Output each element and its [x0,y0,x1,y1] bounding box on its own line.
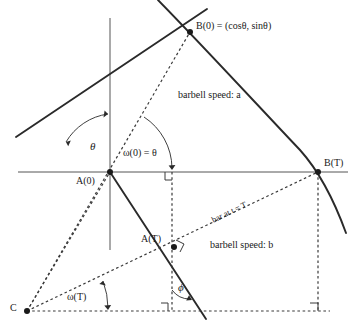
point-marker-A0 [107,169,113,175]
theta-arrow-head [104,111,109,118]
right-angle-x-axis-foot [165,172,172,180]
point-marker-C [24,308,30,314]
point-marker-B0 [187,29,193,35]
point-marker-AT [171,244,177,250]
geometry-figure: B(0) = (cosθ, sinθ) B(T) A(0) A(T) C θ ω… [0,0,362,328]
label-C: C [10,303,17,313]
label-phi: ϕ [178,282,184,293]
bar-line-t0 [16,9,207,137]
label-A0: A(0) [76,176,95,186]
theta-angle-arc [66,114,108,142]
label-omega-T: ω(T) [67,292,86,302]
label-theta: θ [90,141,95,152]
right-angle-bottom-left [161,303,168,311]
right-angle-at-AT [176,240,184,252]
omegaT-arrow-tail [99,281,106,286]
label-barbell-speed-b: barbell speed: b [210,240,273,250]
omega0-arrow-head [169,165,176,170]
point-marker-BT [315,169,321,175]
bar-line-tT [110,172,206,319]
label-barbell-speed-a: barbell speed: a [178,90,241,100]
omega0-angle-arc [144,117,172,168]
label-omega-0: ω(0) = θ [123,148,157,158]
right-angle-bottom-right [310,303,318,311]
diagram-canvas [0,0,362,328]
label-AT: A(T) [141,234,161,244]
omegaT-arrow-head [104,305,111,310]
label-B0: B(0) = (cosθ, sinθ) [196,21,271,31]
label-BT: B(T) [324,158,343,168]
